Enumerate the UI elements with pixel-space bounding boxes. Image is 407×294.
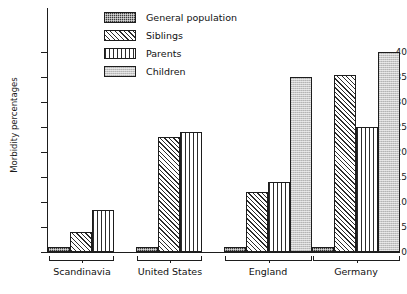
group-bracket-scandinavia xyxy=(49,256,114,261)
bar-united-states-siblings xyxy=(158,137,180,252)
bar-england-general-population xyxy=(224,247,246,252)
group-label-england: England xyxy=(220,266,316,277)
bar-england-parents xyxy=(268,182,290,252)
group-bracket-england xyxy=(225,256,312,261)
bar-germany-general-population xyxy=(312,247,334,252)
legend-label-parents: Parents xyxy=(146,47,181,60)
group-label-united-states: United States xyxy=(122,266,218,277)
group-bracket-germany xyxy=(313,256,400,261)
x-axis-line xyxy=(47,252,400,253)
legend-item-children: Children xyxy=(104,64,284,82)
y-tick-5 xyxy=(41,227,47,228)
legend-swatch-children-icon xyxy=(104,66,136,77)
legend-item-general-population: General population xyxy=(104,10,284,28)
y-tick-25 xyxy=(41,127,47,128)
chart-legend: General population Siblings Parents Chil… xyxy=(104,10,284,82)
legend-swatch-general-population-icon xyxy=(104,12,136,23)
y-axis-title: Morbidity percentages xyxy=(9,60,19,190)
legend-label-siblings: Siblings xyxy=(146,29,183,42)
group-label-scandinavia: Scandinavia xyxy=(34,266,130,277)
bar-scandinavia-siblings xyxy=(70,232,92,252)
bar-scandinavia-general-population xyxy=(48,247,70,252)
y-tick-15 xyxy=(41,177,47,178)
bar-germany-siblings xyxy=(334,75,356,253)
bar-united-states-general-population xyxy=(136,247,158,252)
bar-england-siblings xyxy=(246,192,268,252)
legend-item-parents: Parents xyxy=(104,46,284,64)
group-bracket-united-states xyxy=(137,256,202,261)
y-tick-40 xyxy=(41,52,47,53)
y-tick-0 xyxy=(41,252,47,253)
legend-swatch-parents-icon xyxy=(104,48,136,59)
y-tick-35 xyxy=(41,77,47,78)
legend-swatch-siblings-icon xyxy=(104,30,136,41)
legend-label-children: Children xyxy=(146,65,186,78)
bar-united-states-parents xyxy=(180,132,202,252)
y-tick-30 xyxy=(41,102,47,103)
bar-england-children xyxy=(290,77,312,252)
group-label-germany: Germany xyxy=(308,266,404,277)
legend-item-siblings: Siblings xyxy=(104,28,284,46)
legend-label-general-population: General population xyxy=(146,11,237,24)
bar-germany-children xyxy=(378,52,400,252)
morbidity-bar-chart: Morbidity percentages 0 5 10 15 20 25 30… xyxy=(0,0,407,294)
y-tick-10 xyxy=(41,202,47,203)
y-tick-20 xyxy=(41,152,47,153)
bar-scandinavia-parents xyxy=(92,210,114,253)
bar-germany-parents xyxy=(356,127,378,252)
